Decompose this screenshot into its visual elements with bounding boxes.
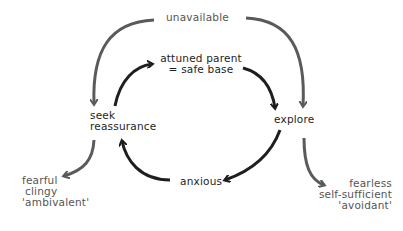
label-ambivalent: fearful clingy 'ambivalent': [22, 175, 89, 208]
arrow-safebase-to-explore: [243, 68, 275, 108]
arrow-anxious-to-seek: [122, 141, 170, 180]
safe-base-line2: = safe base: [158, 64, 244, 75]
avoidant-line3: 'avoidant': [310, 200, 392, 211]
attachment-cycle-diagram: unavailable attuned parent = safe base s…: [0, 0, 403, 231]
seek-line2: reassurance: [90, 121, 156, 132]
ambivalent-line3: 'ambivalent': [22, 197, 89, 208]
arrow-seek-to-ambivalent: [64, 140, 94, 176]
label-anxious: anxious: [180, 176, 222, 187]
label-avoidant: fearless self-sufficient 'avoidant': [310, 178, 392, 211]
label-safe-base: attuned parent = safe base: [158, 53, 244, 75]
arrow-explore-to-anxious: [225, 130, 280, 180]
label-unavailable: unavailable: [166, 12, 229, 23]
arrow-seek-to-safebase: [115, 64, 152, 106]
label-seek-reassurance: seek reassurance: [90, 110, 156, 132]
arrow-unavailable-to-explore: [246, 18, 303, 106]
label-explore: explore: [274, 114, 314, 125]
arrow-unavailable-to-seek: [94, 20, 154, 104]
